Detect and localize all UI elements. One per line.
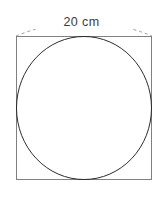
geometry-figure: 20 cm xyxy=(0,0,163,197)
dimension-label-text: 20 cm xyxy=(59,15,103,29)
square-shape xyxy=(17,37,152,180)
dimension-label: 20 cm xyxy=(0,15,163,29)
figure-canvas xyxy=(0,0,163,197)
